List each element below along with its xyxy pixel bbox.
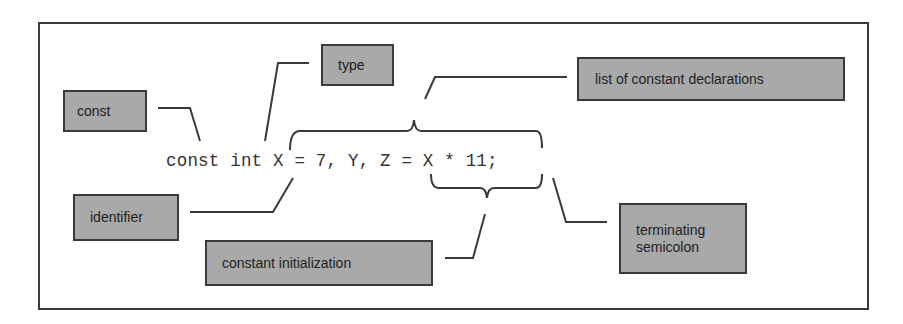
list-connector xyxy=(425,77,567,99)
code-statement: const int X = 7, Y, Z = X * 11; xyxy=(166,151,498,171)
label-identifier-text: identifier xyxy=(90,209,143,226)
label-type-text: type xyxy=(338,57,364,74)
label-constant-initialization: constant initialization xyxy=(205,240,433,286)
label-const-text: const xyxy=(77,103,110,120)
label-initialization-text: constant initialization xyxy=(222,255,351,272)
const-connector xyxy=(158,108,200,141)
label-terminating-line2: semicolon xyxy=(636,239,699,256)
initialization-connector xyxy=(445,214,485,258)
label-identifier: identifier xyxy=(73,194,179,241)
identifier-connector xyxy=(190,178,293,212)
terminating-connector xyxy=(553,178,607,222)
label-list-of-declarations: list of constant declarations xyxy=(577,57,845,101)
label-const: const xyxy=(63,90,147,132)
label-terminating-semicolon: terminating semicolon xyxy=(619,203,747,274)
label-list-text: list of constant declarations xyxy=(595,71,764,88)
label-type: type xyxy=(321,44,394,86)
type-connector xyxy=(265,63,309,141)
list-brace xyxy=(290,120,542,150)
label-terminating-line1: terminating xyxy=(636,222,705,239)
initialization-brace xyxy=(431,174,542,198)
